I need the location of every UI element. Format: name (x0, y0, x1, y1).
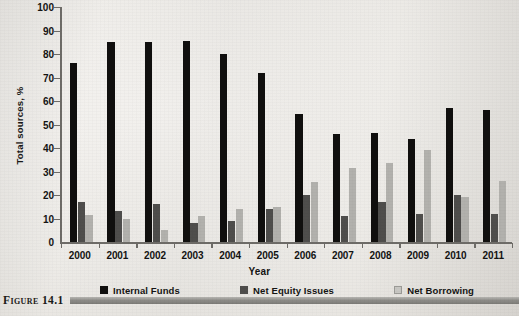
bar-2010-series-2 (454, 195, 461, 242)
figure-rule-divider (70, 297, 519, 304)
x-axis-tick-2004: 2004 (219, 250, 241, 261)
y-axis-tick-80: 80 (24, 49, 54, 60)
bar-2000-series-2 (78, 202, 85, 242)
bar-2007-series-2 (341, 216, 348, 242)
y-axis-tick-10: 10 (24, 213, 54, 224)
bar-2001-series-1 (107, 42, 114, 242)
bar-2011-series-1 (483, 110, 490, 242)
bar-group-2000 (70, 7, 93, 242)
bar-group-2005 (258, 7, 281, 242)
bar-2005-series-3 (273, 207, 280, 242)
bar-2003-series-2 (190, 223, 197, 242)
y-axis-tick-mark (54, 78, 60, 79)
bar-2002-series-2 (153, 204, 160, 242)
y-axis-tick-mark (54, 219, 60, 220)
x-axis-tick-mark (136, 243, 137, 248)
plot-area (61, 7, 512, 242)
x-axis-tick-mark (249, 243, 250, 248)
bar-2002-series-3 (161, 230, 168, 242)
bar-chart: Total sources, % 0102030405060708090100 … (0, 0, 519, 285)
bar-group-2007 (333, 7, 356, 242)
legend-swatch-icon-net-borrowing (394, 286, 402, 294)
x-axis-tick-2010: 2010 (445, 250, 467, 261)
y-axis-tick-100: 100 (24, 2, 54, 13)
x-axis-tick-2001: 2001 (106, 250, 128, 261)
y-axis-tick-90: 90 (24, 25, 54, 36)
bar-2007-series-1 (333, 134, 340, 242)
y-axis-tick-50: 50 (24, 119, 54, 130)
bar-group-2001 (107, 7, 130, 242)
bar-2010-series-1 (446, 108, 453, 242)
x-axis-tick-labels: 2000200120022003200420052006200720082009… (61, 250, 512, 266)
y-axis-tick-60: 60 (24, 96, 54, 107)
x-axis-tick-2008: 2008 (370, 250, 392, 261)
bar-2000-series-3 (85, 215, 92, 242)
bar-group-2002 (145, 7, 168, 242)
bar-group-2009 (408, 7, 431, 242)
y-axis-tick-mark (54, 172, 60, 173)
x-axis-tick-mark (287, 243, 288, 248)
bar-2000-series-1 (70, 63, 77, 242)
bar-2002-series-1 (145, 42, 152, 242)
x-axis-tick-2009: 2009 (407, 250, 429, 261)
legend-swatch-icon-internal-funds (100, 286, 108, 294)
figure-caption-label: Figure 14.1 (3, 294, 64, 306)
bar-2006-series-3 (311, 182, 318, 242)
bar-2005-series-2 (266, 209, 273, 242)
x-axis-tick-mark (512, 243, 513, 248)
bar-2004-series-3 (236, 209, 243, 242)
y-axis-tick-mark (54, 7, 60, 8)
bar-2009-series-3 (424, 150, 431, 242)
y-axis-tick-mark (54, 31, 60, 32)
bar-2005-series-1 (258, 73, 265, 242)
y-axis-tick-70: 70 (24, 72, 54, 83)
bar-2009-series-1 (408, 139, 415, 242)
legend-swatch-icon-net-equity-issues (240, 286, 248, 294)
x-axis-tick-mark (474, 243, 475, 248)
x-axis-tick-2000: 2000 (69, 250, 91, 261)
bar-2006-series-1 (295, 114, 302, 242)
bar-2007-series-3 (349, 168, 356, 242)
x-axis-tick-2011: 2011 (483, 250, 504, 261)
y-axis-tick-0: 0 (24, 237, 54, 248)
bar-group-2008 (371, 7, 394, 242)
y-axis-tick-30: 30 (24, 166, 54, 177)
x-axis-tick-mark (211, 243, 212, 248)
x-axis-tick-mark (174, 243, 175, 248)
x-axis-tick-mark (437, 243, 438, 248)
y-axis-tick-20: 20 (24, 190, 54, 201)
bar-2008-series-1 (371, 133, 378, 242)
x-axis-tick-2002: 2002 (144, 250, 166, 261)
bar-2008-series-2 (378, 202, 385, 242)
x-axis-tick-2006: 2006 (294, 250, 316, 261)
bar-group-2004 (220, 7, 243, 242)
y-axis-tick-mark (54, 125, 60, 126)
bar-group-2010 (446, 7, 469, 242)
x-axis-tick-mark (61, 243, 62, 248)
bar-2011-series-2 (491, 214, 498, 242)
bar-2004-series-1 (220, 54, 227, 242)
x-axis-tick-mark (324, 243, 325, 248)
y-axis-label: Total sources, % (14, 66, 25, 186)
bar-2001-series-2 (115, 211, 122, 242)
y-axis-tick-mark (54, 148, 60, 149)
bar-2011-series-3 (499, 181, 506, 242)
x-axis-tick-mark (99, 243, 100, 248)
figure-page: Total sources, % 0102030405060708090100 … (0, 0, 519, 316)
x-axis-tick-2007: 2007 (332, 250, 354, 261)
y-axis-tick-mark (54, 195, 60, 196)
y-axis-tick-40: 40 (24, 143, 54, 154)
bar-2009-series-2 (416, 214, 423, 242)
x-axis-tick-mark (362, 243, 363, 248)
bar-group-2006 (295, 7, 318, 242)
y-axis-tick-mark (54, 54, 60, 55)
bar-group-2003 (183, 7, 206, 242)
bar-2001-series-3 (123, 219, 130, 243)
y-axis-tick-mark (54, 101, 60, 102)
x-axis-label: Year (0, 266, 519, 277)
bar-2003-series-3 (198, 216, 205, 242)
bar-2008-series-3 (386, 163, 393, 242)
bar-2004-series-2 (228, 221, 235, 242)
y-axis-tick-labels: 0102030405060708090100 (24, 0, 54, 250)
bar-2003-series-1 (183, 41, 190, 242)
